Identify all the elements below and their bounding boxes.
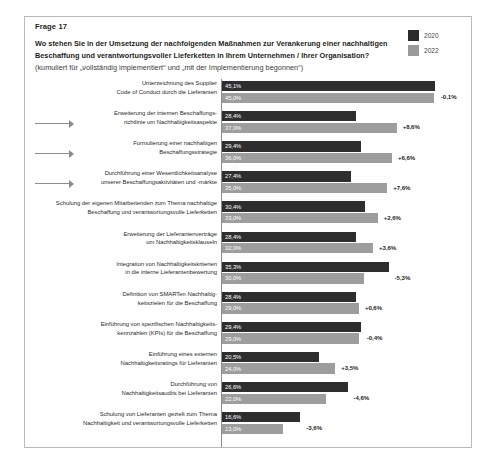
category-label: Integration von Nachhaltigkeitskriterien…	[37, 260, 217, 278]
category-label-line: Beschaffung und verantwortungsvolle Lief…	[37, 208, 217, 217]
category-label-line: Nachhaltigkeit und verantwortungsvolle L…	[37, 419, 217, 428]
question-number-label: Frage 17	[35, 22, 67, 31]
category-label-line: Durchführung einer Wesentlichkeitsanalys…	[37, 169, 217, 178]
bar-2020: 45,1%	[222, 81, 435, 91]
question-card: Frage 17 Wo stehen Sie in der Umsetzung …	[24, 16, 472, 448]
bar-value-label-2020: 28,4%	[225, 113, 241, 119]
bar-value-label-2020: 29,4%	[225, 324, 241, 330]
bar-2022: 29,0%	[222, 333, 359, 343]
category-label: Durchführung einer Wesentlichkeitsanalys…	[37, 169, 217, 187]
bar-value-label-2020: 30,4%	[225, 204, 241, 210]
bar-2020: 30,4%	[222, 201, 365, 211]
category-label-line: Schulung von Lieferanten gezielt zum The…	[37, 410, 217, 419]
category-label-line: Erweiterung der Lieferantenverträge	[37, 230, 217, 239]
legend-item-2022: 2022	[408, 44, 462, 57]
category-label-line: Formulierung einer nachhaltigen	[37, 139, 217, 148]
question-title-subtitle: (kumuliert für „vollständig implementier…	[35, 63, 303, 72]
category-label-line: Einführung von spezifischen Nachhaltigke…	[37, 320, 217, 329]
bar-2020: 28,4%	[222, 232, 356, 242]
chart-row-group: Durchführung einer Wesentlichkeitsanalys…	[25, 169, 473, 198]
bar-value-label-2022: 45,0%	[225, 95, 241, 101]
bar-value-label-2022: 29,0%	[225, 336, 241, 342]
category-label: Unterzeichnung des SupplierCode of Condu…	[37, 79, 217, 97]
chart-row-group: Formulierung einer nachhaltigenBeschaffu…	[25, 139, 473, 168]
delta-label: +2,6%	[384, 214, 401, 221]
category-label-line: Nachhaltigkeitsratings für Lieferanten	[37, 359, 217, 368]
category-label-line: Erweiterung der internen Beschaffungs-	[37, 109, 217, 118]
category-label: Einführung von spezifischen Nachhaltigke…	[37, 320, 217, 338]
bar-pair: 35,3%30,0%-5,3%	[222, 262, 473, 287]
delta-label: -3,6%	[306, 424, 322, 431]
bar-value-label-2022: 37,0%	[225, 125, 241, 131]
legend-label-2022: 2022	[424, 47, 439, 54]
bar-2020: 28,4%	[222, 292, 356, 302]
bar-2022: 30,0%	[222, 273, 364, 283]
bar-2020: 27,4%	[222, 171, 351, 181]
bar-value-label-2022: 36,0%	[225, 155, 241, 161]
bar-value-label-2020: 35,3%	[225, 264, 241, 270]
category-label: Schulung der eigenen Mitarbeitenden zum …	[37, 199, 217, 217]
chart-page: Frage 17 Wo stehen Sie in der Umsetzung …	[0, 0, 491, 476]
delta-label: -5,3%	[395, 274, 411, 281]
bar-chart: Unterzeichnung des SupplierCode of Condu…	[25, 79, 473, 447]
bar-value-label-2022: 33,0%	[225, 215, 241, 221]
bar-2020: 29,4%	[222, 322, 361, 332]
category-label-line: Beschaffungsstrategie	[37, 148, 217, 157]
bar-2020: 28,4%	[222, 111, 356, 121]
bar-2022: 13,0%	[222, 424, 283, 434]
category-label-line: Durchführung von	[37, 380, 217, 389]
chart-row-group: Erweiterung der Lieferantenverträgeum Na…	[25, 230, 473, 259]
bar-2022: 24,0%	[222, 363, 335, 373]
category-label-line: Definition von SMARTen Nachhaltig-	[37, 290, 217, 299]
bar-2022: 33,0%	[222, 213, 378, 223]
category-label-line: richtlinie um Nachhaltigkeitsaspekte	[37, 118, 217, 127]
bar-pair: 29,4%29,0%-0,4%	[222, 322, 473, 347]
bar-pair: 27,4%35,0%+7,6%	[222, 171, 473, 196]
bar-value-label-2022: 32,0%	[225, 245, 241, 251]
bar-pair: 28,4%29,0%+0,6%	[222, 292, 473, 317]
bar-value-label-2022: 22,0%	[225, 396, 241, 402]
category-label-line: Unterzeichnung des Supplier	[37, 79, 217, 88]
delta-label: +3,6%	[379, 244, 396, 251]
bar-pair: 16,6%13,0%-3,6%	[222, 412, 473, 437]
category-label: Durchführung vonNachhaltigkeitsaudits be…	[37, 380, 217, 398]
chart-row-group: Schulung von Lieferanten gezielt zum The…	[25, 410, 473, 439]
bar-value-label-2022: 24,0%	[225, 366, 241, 372]
bar-pair: 20,5%24,0%+3,5%	[222, 352, 473, 377]
chart-row-group: Einführung von spezifischen Nachhaltigke…	[25, 320, 473, 349]
bar-2022: 29,0%	[222, 303, 359, 313]
delta-label: +7,6%	[393, 184, 410, 191]
category-label-line: um Nachhaltigkeitsklauseln	[37, 238, 217, 247]
chart-row-group: Schulung der eigenen Mitarbeitenden zum …	[25, 199, 473, 228]
bar-2022: 45,0%	[222, 93, 434, 103]
delta-label: -4,6%	[354, 394, 370, 401]
bar-value-label-2022: 30,0%	[225, 275, 241, 281]
category-label-line: in die interne Lieferantenbewertung	[37, 268, 217, 277]
category-label-line: Einführung eines externen	[37, 350, 217, 359]
category-label-line: Code of Conduct durch die Lieferanten	[37, 88, 217, 97]
category-label-line: keitszielen für die Beschaffung	[37, 299, 217, 308]
category-label: Einführung eines externenNachhaltigkeits…	[37, 350, 217, 368]
category-label-line: kennzahlen (KPIs) für die Beschaffung	[37, 329, 217, 338]
bar-pair: 29,4%36,0%+6,6%	[222, 141, 473, 166]
chart-row-group: Einführung eines externenNachhaltigkeits…	[25, 350, 473, 379]
chart-row-group: Erweiterung der internen Beschaffungs-ri…	[25, 109, 473, 138]
delta-label: +3,5%	[341, 364, 358, 371]
chart-row-group: Definition von SMARTen Nachhaltig-keitsz…	[25, 290, 473, 319]
bar-value-label-2020: 26,6%	[225, 384, 241, 390]
category-label-line: Nachhaltigkeitsaudits bei Lieferanten	[37, 389, 217, 398]
bar-pair: 26,6%22,0%-4,6%	[222, 382, 473, 407]
delta-label: -0,4%	[367, 334, 383, 341]
bar-2022: 36,0%	[222, 153, 392, 163]
question-title: Wo stehen Sie in der Umsetzung der nachf…	[35, 38, 391, 73]
category-label: Definition von SMARTen Nachhaltig-keitsz…	[37, 290, 217, 308]
bar-value-label-2020: 27,4%	[225, 173, 241, 179]
bar-pair: 30,4%33,0%+2,6%	[222, 201, 473, 226]
category-label-line: unserer Beschaffungsaktivitäten und -mär…	[37, 178, 217, 187]
bar-pair: 28,4%32,0%+3,6%	[222, 232, 473, 257]
bar-2020: 26,6%	[222, 382, 348, 392]
legend-swatch-icon-2020	[408, 30, 419, 41]
bar-value-label-2020: 28,4%	[225, 294, 241, 300]
bar-value-label-2020: 29,4%	[225, 143, 241, 149]
bar-value-label-2020: 16,6%	[225, 414, 241, 420]
